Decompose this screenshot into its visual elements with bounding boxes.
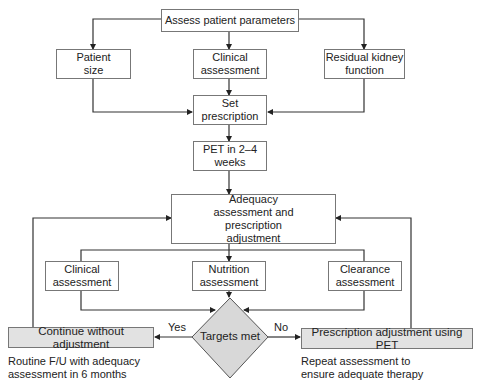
note-routine-followup: Routine F/U with adequacy assessment in … [8, 355, 143, 381]
pet-label: PET in 2–4 weeks [199, 143, 261, 169]
assess-patient-parameters-box: Assess patient parameters [161, 9, 299, 32]
patient-size-box: Patient size [56, 49, 131, 79]
yes-label: Yes [168, 321, 186, 334]
continue-without-adjustment-box: Continue without adjustment [8, 327, 154, 348]
residual-label: Residual kidney function [325, 51, 404, 77]
assess-label: Assess patient parameters [165, 14, 295, 27]
set-prescription-label: Set prescription [197, 97, 263, 123]
clearance-label: Clearance assessment [329, 263, 401, 289]
pet-box: PET in 2–4 weeks [193, 141, 267, 171]
set-prescription-box: Set prescription [193, 95, 267, 125]
continue-label: Continue without adjustment [9, 325, 153, 351]
clinical-assessment-bottom-box: Clinical assessment [45, 261, 119, 291]
clearance-assessment-box: Clearance assessment [328, 261, 402, 291]
adequacy-assessment-box: Adequacy assessment and prescription adj… [171, 194, 336, 244]
prescription-adjustment-box: Prescription adjustment using PET [301, 328, 473, 349]
nutrition-label: Nutrition assessment [193, 263, 265, 289]
no-label: No [274, 321, 288, 334]
rx-adjust-label: Prescription adjustment using PET [302, 326, 472, 352]
note-repeat-assessment: Repeat assessment to ensure adequate the… [301, 355, 441, 381]
adequacy-label: Adequacy assessment and prescription adj… [199, 193, 309, 245]
clinical-top-label: Clinical assessment [194, 51, 266, 77]
clinical-bottom-label: Clinical assessment [46, 263, 118, 289]
decision-targets-met: Targets met [195, 330, 265, 342]
clinical-assessment-top-box: Clinical assessment [193, 49, 267, 79]
residual-kidney-function-box: Residual kidney function [324, 49, 405, 79]
nutrition-assessment-box: Nutrition assessment [192, 261, 266, 291]
patient-size-label: Patient size [69, 51, 119, 77]
